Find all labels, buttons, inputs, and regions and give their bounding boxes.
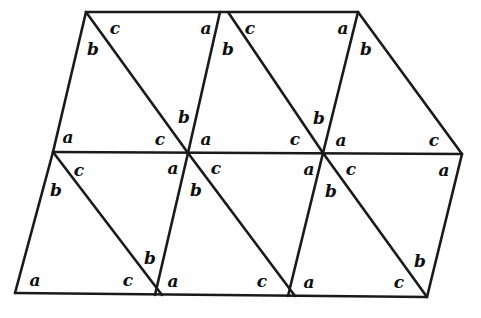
angle-label-c: c [257,273,267,290]
angle-label-a: a [303,274,314,291]
angle-label-b: b [360,41,372,58]
tiling-figure: cbacbabbbacacaccacacabbbbbacacac [0,0,481,318]
angle-label-b: b [50,182,62,199]
angle-label-a: a [29,272,40,289]
angle-label-c: c [74,162,84,179]
angle-label-a: a [167,160,178,177]
angle-label-a: a [337,20,348,37]
angle-label-c: c [290,131,300,148]
angle-label-b: b [414,253,426,270]
angle-label-c: c [429,132,439,149]
angle-label-b: b [87,41,99,58]
angle-label-b: b [313,110,325,127]
angle-label-c: c [123,272,133,289]
lower-diagonal-1 [53,152,162,295]
angle-label-a: a [200,131,211,148]
angle-label-a: a [335,132,346,149]
upper-right-slant [358,12,462,154]
angle-label-b: b [178,109,190,126]
angle-label-a: a [438,162,449,179]
upper-diagonal-2 [228,12,323,153]
angle-label-a: a [303,161,314,178]
angle-label-b: b [325,183,337,200]
angle-label-c: c [110,20,120,37]
angle-label-a: a [200,20,211,37]
angle-label-c: c [211,160,221,177]
angle-label-a: a [167,273,178,290]
lower-diagonal-3 [323,153,427,297]
angle-label-c: c [346,161,356,178]
upper-diagonal-1 [86,12,188,153]
middle-horizontal-edge [53,152,462,154]
angle-label-a: a [62,129,73,146]
angle-label-c: c [394,274,404,291]
bottom-edge [15,293,427,297]
angle-label-b: b [144,250,156,267]
angle-label-c: c [155,131,165,148]
edges-group [15,12,462,297]
angle-label-b: b [222,41,234,58]
lower-diagonal-2 [188,153,295,296]
triangle-tiling-diagram [0,0,481,318]
angle-label-b: b [190,182,202,199]
angle-label-c: c [245,20,255,37]
